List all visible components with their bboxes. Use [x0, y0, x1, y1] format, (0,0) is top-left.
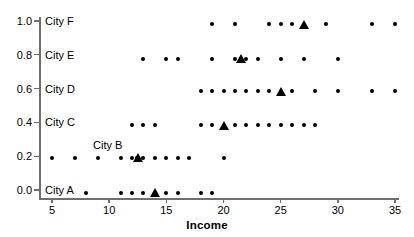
data-point-city-b-11 — [222, 156, 226, 160]
x-axis-title: Income — [0, 219, 414, 231]
data-point-city-c-0 — [130, 123, 134, 127]
data-point-city-c-3 — [199, 123, 203, 127]
y-axis-line — [39, 17, 41, 198]
data-point-city-a-4 — [164, 191, 168, 195]
data-point-city-c-6 — [244, 123, 248, 127]
data-point-city-f-7 — [393, 22, 397, 26]
series-label-city-a: City A — [45, 184, 74, 196]
data-point-city-c-1 — [141, 123, 145, 127]
data-point-city-a-1 — [119, 191, 123, 195]
y-tick-label-0.0: 0.0 — [0, 184, 32, 196]
chart-figure: 5101520253035 0.00.20.40.60.81.0 City AC… — [0, 0, 414, 237]
data-point-city-e-0 — [141, 57, 145, 61]
data-point-city-a-3 — [141, 191, 145, 195]
data-point-city-c-11 — [302, 123, 306, 127]
data-point-city-b-2 — [96, 156, 100, 160]
data-point-city-f-4 — [290, 22, 294, 26]
data-point-city-d-2 — [222, 89, 226, 93]
data-point-city-e-9 — [336, 57, 340, 61]
data-point-city-f-0 — [210, 22, 214, 26]
data-point-city-c-7 — [256, 123, 260, 127]
data-point-city-d-9 — [336, 89, 340, 93]
series-label-city-f: City F — [45, 15, 74, 27]
data-point-city-d-1 — [210, 89, 214, 93]
y-tick-label-wrap-0.0: 0.0 — [0, 190, 32, 202]
data-point-city-c-12 — [313, 123, 317, 127]
data-point-city-f-6 — [370, 22, 374, 26]
x-tick-label-15: 15 — [160, 204, 172, 216]
y-tick-label-wrap-1.0: 1.0 — [0, 21, 32, 33]
data-point-city-c-9 — [279, 123, 283, 127]
data-point-city-a-7 — [210, 191, 214, 195]
data-point-city-a-0 — [84, 191, 88, 195]
y-tick-label-wrap-0.8: 0.8 — [0, 55, 32, 67]
y-tick-label-0.6: 0.6 — [0, 83, 32, 95]
data-point-city-b-3 — [119, 156, 123, 160]
y-tick-label-wrap-0.6: 0.6 — [0, 89, 32, 101]
data-point-city-b-7 — [153, 156, 157, 160]
x-axis-line — [39, 198, 399, 200]
x-tick-label-10: 10 — [103, 204, 115, 216]
x-tick-label-30: 30 — [332, 204, 344, 216]
data-point-city-d-8 — [313, 89, 317, 93]
data-point-city-f-2 — [267, 22, 271, 26]
x-tick-label-35: 35 — [389, 204, 401, 216]
mean-marker-city-d — [276, 87, 286, 96]
x-tick-35 — [394, 198, 395, 203]
data-point-city-a-6 — [199, 191, 203, 195]
data-point-city-f-1 — [233, 22, 237, 26]
data-point-city-d-10 — [370, 89, 374, 93]
x-tick-20 — [223, 198, 224, 203]
data-point-city-b-8 — [164, 156, 168, 160]
data-point-city-c-5 — [233, 123, 237, 127]
data-point-city-c-8 — [267, 123, 271, 127]
y-tick-label-wrap-0.4: 0.4 — [0, 122, 32, 134]
x-tick-label-5: 5 — [49, 204, 55, 216]
data-point-city-a-5 — [176, 191, 180, 195]
data-point-city-e-1 — [164, 57, 168, 61]
y-tick-1.0 — [34, 20, 39, 21]
data-point-city-d-0 — [199, 89, 203, 93]
data-point-city-c-2 — [153, 123, 157, 127]
data-point-city-a-2 — [130, 191, 134, 195]
mean-marker-city-a — [150, 188, 160, 197]
data-point-city-e-3 — [210, 57, 214, 61]
data-point-city-d-5 — [256, 89, 260, 93]
data-point-city-c-10 — [290, 123, 294, 127]
data-point-city-b-10 — [187, 156, 191, 160]
x-tick-10 — [108, 198, 109, 203]
x-tick-30 — [337, 198, 338, 203]
data-point-city-b-0 — [50, 156, 54, 160]
x-tick-label-25: 25 — [275, 204, 287, 216]
y-tick-0.0 — [34, 189, 39, 190]
series-label-city-b: City B — [93, 139, 122, 151]
mean-marker-city-f — [299, 20, 309, 29]
mean-marker-city-e — [236, 54, 246, 63]
mean-marker-city-c — [219, 121, 229, 130]
y-tick-0.8 — [34, 54, 39, 55]
data-point-city-b-1 — [73, 156, 77, 160]
x-tick-15 — [166, 198, 167, 203]
y-tick-label-0.2: 0.2 — [0, 150, 32, 162]
plot-area: 5101520253035 0.00.20.40.60.81.0 City AC… — [0, 0, 414, 237]
x-tick-label-20: 20 — [217, 204, 229, 216]
data-point-city-d-4 — [244, 89, 248, 93]
y-tick-0.4 — [34, 122, 39, 123]
data-point-city-f-5 — [324, 22, 328, 26]
data-point-city-f-3 — [279, 22, 283, 26]
y-tick-label-0.4: 0.4 — [0, 116, 32, 128]
series-label-city-e: City E — [45, 49, 74, 61]
data-point-city-b-9 — [176, 156, 180, 160]
data-point-city-e-2 — [176, 57, 180, 61]
data-point-city-d-3 — [233, 89, 237, 93]
mean-marker-city-b — [133, 153, 143, 162]
x-tick-5 — [51, 198, 52, 203]
y-tick-0.2 — [34, 156, 39, 157]
y-tick-label-1.0: 1.0 — [0, 15, 32, 27]
data-point-city-d-6 — [267, 89, 271, 93]
data-point-city-e-6 — [256, 57, 260, 61]
x-tick-25 — [280, 198, 281, 203]
data-point-city-e-8 — [302, 57, 306, 61]
data-point-city-c-4 — [210, 123, 214, 127]
data-point-city-d-7 — [290, 89, 294, 93]
